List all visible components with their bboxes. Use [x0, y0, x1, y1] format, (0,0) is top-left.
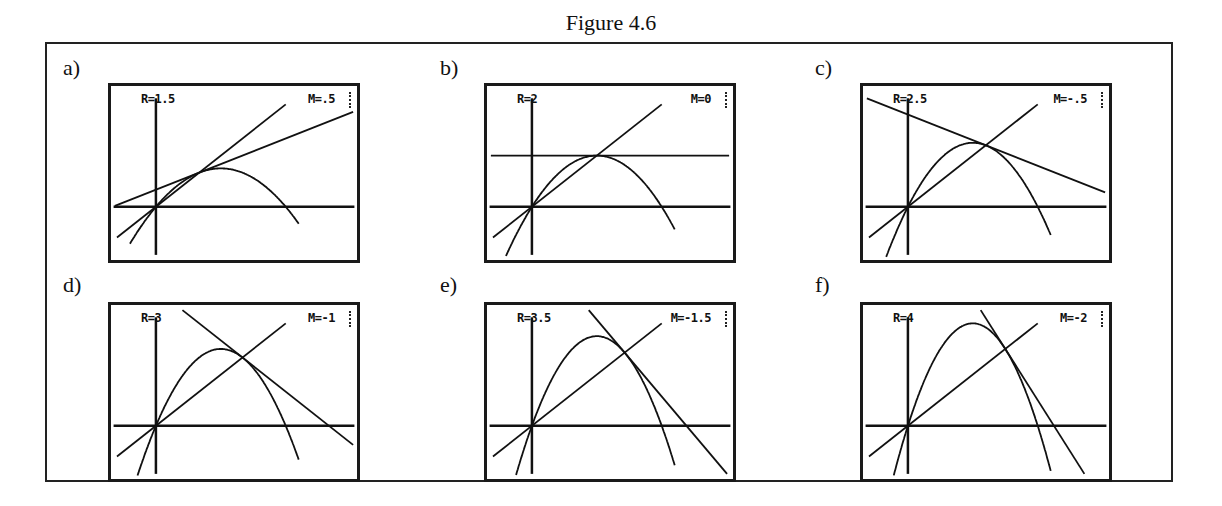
r-value-label: R=3.5: [517, 311, 551, 325]
plot-canvas: [860, 83, 1112, 263]
panel-label-f: f): [815, 272, 830, 298]
busy-indicator-icon: [725, 311, 729, 327]
calc-screen-d: R=3 M=-1: [108, 302, 360, 482]
m-value-label: M=.5: [308, 92, 335, 106]
calc-screen-f: R=4 M=-2: [860, 302, 1112, 482]
tangent-line: [867, 98, 1105, 192]
panel-label-c: c): [815, 55, 832, 81]
panel-label-b: b): [440, 55, 458, 81]
logistic-curve: [138, 349, 299, 476]
m-value-label: M=0: [691, 92, 711, 106]
diagonal-line: [869, 104, 1038, 237]
r-value-label: R=2.5: [893, 92, 927, 106]
diagonal-line: [493, 104, 662, 237]
m-value-label: M=-.5: [1053, 92, 1087, 106]
logistic-curve: [894, 323, 1051, 475]
busy-indicator-icon: [1101, 311, 1105, 327]
busy-indicator-icon: [725, 92, 729, 108]
calc-screen-e: R=3.5 M=-1.5: [484, 302, 736, 482]
panel-label-d: d): [63, 272, 81, 298]
plot-canvas: [860, 302, 1112, 482]
calc-screen-b: R=2 M=0: [484, 83, 736, 263]
busy-indicator-icon: [1101, 92, 1105, 108]
tangent-line: [981, 310, 1085, 474]
r-value-label: R=3: [141, 311, 161, 325]
r-value-label: R=1.5: [141, 92, 175, 106]
panel-label-a: a): [63, 55, 80, 81]
m-value-label: M=-1: [308, 311, 335, 325]
tangent-line: [115, 112, 353, 206]
logistic-curve: [516, 336, 675, 475]
m-value-label: M=-1.5: [671, 311, 711, 325]
m-value-label: M=-2: [1060, 311, 1087, 325]
plot-canvas: [108, 302, 360, 482]
r-value-label: R=2: [517, 92, 537, 106]
plot-canvas: [484, 302, 736, 482]
r-value-label: R=4: [893, 311, 913, 325]
diagonal-line: [117, 323, 286, 456]
busy-indicator-icon: [349, 92, 353, 108]
calc-screen-c: R=2.5 M=-.5: [860, 83, 1112, 263]
busy-indicator-icon: [349, 311, 353, 327]
tangent-line: [589, 310, 727, 474]
diagonal-line: [869, 323, 1038, 456]
plot-canvas: [108, 83, 360, 263]
plot-canvas: [484, 83, 736, 263]
figure-title: Figure 4.6: [0, 10, 1222, 36]
panel-label-e: e): [440, 272, 457, 298]
calc-screen-a: R=1.5 M=.5: [108, 83, 360, 263]
